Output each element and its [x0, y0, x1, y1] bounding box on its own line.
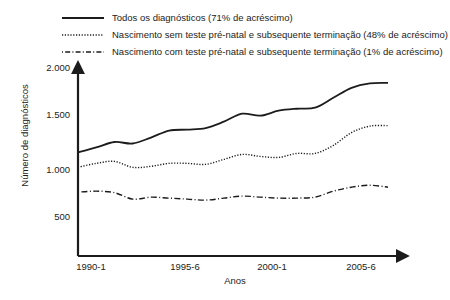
x-axis-label: Anos: [195, 275, 275, 286]
series-line-sem-teste-prenatal: [78, 125, 388, 167]
plot-area: 2.000 1.500 1.000 500 1990-1 1995-6 2000…: [0, 0, 450, 300]
x-tick-2000-1: 2000-1: [242, 261, 302, 272]
y-axis-label: Número de diagnósticos: [19, 76, 30, 196]
y-tick-500: 500: [30, 211, 70, 222]
y-tick-1000: 1.000: [30, 164, 70, 175]
chart-canvas: [0, 0, 450, 300]
x-tick-1995-6: 1995-6: [155, 261, 215, 272]
x-tick-1990-1: 1990-1: [61, 261, 121, 272]
y-tick-2000: 2.000: [30, 62, 70, 73]
series-line-com-teste-prenatal: [78, 185, 388, 200]
series-line-todos-diagnosticos: [78, 83, 388, 153]
y-tick-1500: 1.500: [30, 109, 70, 120]
figure-line-chart: Todos os diagnósticos (71% de acréscimo)…: [0, 0, 450, 300]
x-tick-2005-6: 2005-6: [331, 261, 391, 272]
